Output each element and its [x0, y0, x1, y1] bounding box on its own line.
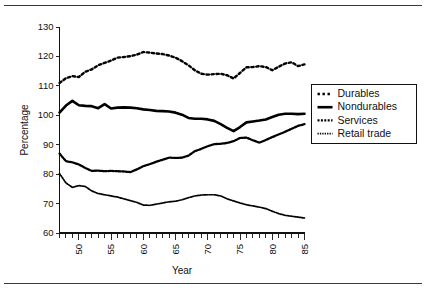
figure-container: 60708090100110120130 5055606570758085 Du…: [0, 0, 426, 290]
y-tick-label: 100: [38, 109, 54, 120]
legend-label-nondurables: Nondurables: [338, 100, 398, 112]
legend-label-durables: Durables: [338, 87, 380, 99]
x-tick-label: 50: [73, 244, 84, 255]
x-tick-label: 55: [105, 244, 116, 255]
x-tick-label: 85: [299, 244, 310, 255]
legend: DurablesNondurablesServicesRetail trade: [312, 85, 417, 144]
legend-label-retail-trade: Retail trade: [338, 127, 392, 139]
y-tick-label: 90: [43, 139, 54, 150]
y-tick-label: 110: [38, 80, 53, 91]
y-axis-ticks: 60708090100110120130: [38, 21, 60, 238]
legend-label-services: Services: [338, 114, 378, 126]
series-line-durables: [60, 52, 305, 83]
data-series: [60, 52, 305, 218]
x-tick-label: 80: [267, 244, 278, 255]
x-tick-label: 70: [202, 244, 213, 255]
series-line-services: [60, 124, 305, 172]
series-line-retail-trade: [60, 174, 305, 218]
y-tick-label: 80: [43, 168, 54, 179]
x-tick-label: 60: [138, 244, 149, 255]
line-chart: 60708090100110120130 5055606570758085 Du…: [0, 0, 426, 290]
y-tick-label: 120: [38, 50, 54, 61]
series-line-nondurables: [60, 101, 305, 131]
y-tick-label: 130: [38, 21, 54, 32]
axes: [60, 27, 305, 233]
x-tick-label: 75: [234, 244, 245, 255]
y-tick-label: 60: [43, 227, 54, 238]
y-axis-label: Percentage: [19, 104, 30, 156]
x-tick-label: 65: [170, 244, 181, 255]
x-axis-label: Year: [172, 265, 193, 276]
x-axis-ticks: 5055606570758085: [60, 233, 310, 255]
y-tick-label: 70: [43, 198, 54, 209]
